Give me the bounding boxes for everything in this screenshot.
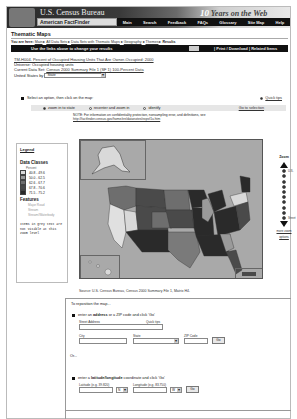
radio-zoom-in[interactable]: zoom in to state [43, 106, 75, 110]
breadcrumb: You are here: Main ▸ All Data Sets ▸ Dat… [11, 40, 175, 44]
radio-recenter[interactable]: recenter and zoom in [89, 106, 130, 110]
divider [11, 38, 288, 39]
bullet-icon [72, 314, 75, 317]
latlon-go-button[interactable]: Go [186, 386, 199, 393]
zoom-level[interactable] [282, 174, 286, 178]
nav-feedback[interactable]: Feedback [168, 20, 186, 25]
nav-main[interactable]: Main [123, 20, 132, 25]
agency-name: U.S. Census Bureau [40, 8, 104, 17]
zoom-level[interactable] [282, 180, 286, 184]
legend-panel: Legend Data Classes Percent 40.8 - 49.6 … [16, 143, 68, 283]
results-bar-message: Use the links above to change your resul… [31, 45, 112, 52]
reposition-heading: To reposition the map... [71, 302, 110, 306]
nav-help[interactable]: Help [276, 20, 285, 25]
divider [65, 410, 291, 411]
zoom-level[interactable] [282, 190, 286, 194]
legend-title[interactable]: Legend [20, 147, 64, 152]
nav-site-map[interactable]: Site Map [248, 20, 264, 25]
map-options: Select an option, then click on the map:… [21, 96, 286, 122]
map-source: Source: U.S. Census Bureau, Census 2000 … [79, 289, 190, 293]
radio-identify[interactable]: identify [143, 106, 160, 110]
zoom-level[interactable] [282, 206, 286, 210]
bullet-icon [21, 97, 24, 100]
nav-faqs[interactable]: FAQs [198, 20, 208, 25]
crumb-results: Results [162, 40, 175, 44]
note-link[interactable]: http://factfinder.census.gov/home/en/dat… [73, 117, 206, 121]
nav-glossary[interactable]: Glossary [219, 20, 236, 25]
crumb-all-data-sets[interactable]: All Data Sets [46, 40, 67, 44]
print-download-links[interactable]: | Print / Download | Related Items [214, 45, 277, 52]
geography-select[interactable]: State [44, 73, 106, 78]
factfinder-logo[interactable]: American FactFinder [37, 18, 117, 26]
crumb-thematic-data-sets[interactable]: Data Sets with Thematic Maps [71, 40, 120, 44]
zoom-level-street[interactable]: Street [282, 216, 286, 220]
city-input[interactable] [79, 338, 127, 344]
nav-search[interactable]: Search [143, 20, 156, 25]
confidentiality-note: NOTE: For information on confidentiality… [73, 113, 206, 121]
zip-input[interactable] [184, 338, 208, 344]
alaska-inset[interactable] [80, 140, 146, 180]
features-title: Features [20, 197, 64, 202]
hawaii-inset[interactable] [80, 255, 120, 279]
zoom-level-us[interactable]: U.S. [282, 169, 286, 173]
anniversary-tagline: 10 Years on the Web [200, 8, 267, 18]
thematic-map[interactable] [79, 139, 263, 279]
top-nav: Main Search Feedback FAQs Glossary Site … [117, 18, 290, 26]
longitude-direction-select[interactable]: W [170, 387, 182, 393]
data-classes-title: Data Classes [20, 160, 64, 165]
address-go-button[interactable]: Go [212, 337, 225, 344]
legend-class: 71.5 - 75.2 [20, 190, 64, 195]
state-select[interactable] [133, 338, 179, 344]
zoom-out-arrow-icon[interactable] [280, 221, 288, 227]
zoom-label: Zoom [271, 155, 297, 159]
zoom-level[interactable] [282, 185, 286, 189]
more-zoom-link[interactable]: more zoom [271, 229, 297, 233]
census-banner: U.S. Census Bureau American FactFinder 1… [7, 7, 290, 28]
zoom-options-link[interactable]: options [271, 235, 297, 239]
longitude-input[interactable] [133, 387, 167, 393]
street-address-input[interactable] [79, 324, 163, 330]
zoom-level[interactable] [282, 195, 286, 199]
latitude-direction-select[interactable]: N [116, 387, 128, 393]
zoom-control: Zoom U.S. Street more zoom options [271, 155, 297, 239]
crumb-themes[interactable]: Themes [145, 40, 158, 44]
crumb-main[interactable]: Main [35, 40, 43, 44]
reposition-panel: To reposition the map... enter an addres… [65, 298, 291, 419]
bullet-icon [72, 377, 75, 380]
latitude-input[interactable] [79, 387, 113, 393]
page-title: Thematic Maps [11, 31, 51, 37]
results-bar: Use the links above to change your resul… [11, 45, 288, 52]
zoom-in-arrow-icon[interactable] [280, 162, 288, 168]
census-seal-logo [9, 8, 35, 27]
go-to-selection-link[interactable]: Go to selection [239, 106, 264, 110]
zoom-level[interactable] [282, 211, 286, 215]
dataset-link[interactable]: Census 2000 Summary File 1 (SF 1) 100-Pe… [46, 67, 143, 72]
legend-footnote: Items in grey text are not visible at th… [20, 222, 64, 236]
info-icon [260, 97, 263, 100]
zoom-level[interactable] [282, 200, 286, 204]
bar-indicator [189, 46, 199, 51]
crumb-geography[interactable]: Geography [124, 40, 142, 44]
quick-tips-link[interactable]: Quick tips [265, 96, 282, 100]
map-info: TM-H004. Percent of Occupied Housing Uni… [14, 57, 154, 78]
puerto-rico-inset[interactable] [235, 268, 263, 279]
